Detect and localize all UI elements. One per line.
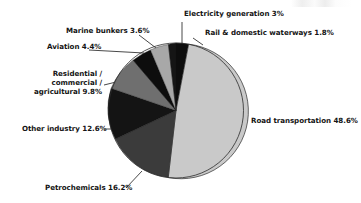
leader-line-marine	[139, 35, 156, 48]
pie-chart-figure: Electricity generation 3% Rail & domesti…	[0, 0, 361, 203]
slice-label-residential-line1: Residential / commercial /	[52, 69, 103, 87]
slice-label-residential-commercial-agricultural: Residential / commercial / agricultural …	[8, 69, 102, 97]
pie-slices	[108, 43, 248, 179]
slice-label-residential-line2: agricultural 9.8%	[34, 87, 102, 96]
slice-label-petrochemicals: Petrochemicals 16.2%	[45, 183, 132, 192]
slice-label-aviation: Aviation 4.4%	[47, 42, 101, 51]
slice-label-other-industry: Other industry 12.6%	[22, 124, 107, 133]
leader-line-rail	[193, 38, 203, 45]
slice-label-road-transportation: Road transportation 48.6%	[251, 116, 358, 125]
slice-label-marine-bunkers: Marine bunkers 3.6%	[66, 26, 150, 35]
slice-label-rail-domestic-waterways: Rail & domestic waterways 1.8%	[205, 28, 334, 37]
slice-label-electricity-generation: Electricity generation 3%	[184, 9, 284, 18]
